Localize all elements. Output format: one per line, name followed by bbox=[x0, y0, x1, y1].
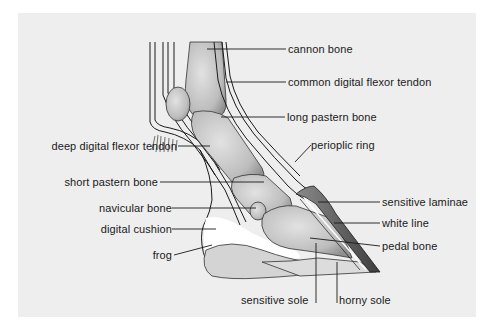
cannon-bone bbox=[185, 42, 226, 120]
label-perioplic-ring: perioplic ring bbox=[311, 139, 375, 151]
label-frog: frog bbox=[153, 249, 172, 261]
label-short-pastern-bone: short pastern bone bbox=[64, 176, 158, 188]
label-cannon-bone: cannon bone bbox=[288, 43, 353, 55]
label-sensitive-laminae: sensitive laminae bbox=[382, 196, 468, 208]
sesamoid-bone bbox=[166, 87, 190, 121]
label-sensitive-sole: sensitive sole bbox=[241, 294, 308, 306]
label-pedal-bone: pedal bone bbox=[382, 240, 437, 252]
label-navicular-bone: navicular bone bbox=[99, 202, 172, 214]
hoof-anatomy-illustration bbox=[0, 0, 493, 329]
label-common-digital-flexor-tendon: common digital flexor tendon bbox=[288, 76, 431, 88]
label-white-line: white line bbox=[382, 217, 429, 229]
label-deep-digital-flexor-tendon: deep digital flexor tendon bbox=[51, 140, 177, 152]
label-horny-sole: horny sole bbox=[339, 294, 391, 306]
label-digital-cushion: digital cushion bbox=[101, 223, 172, 235]
label-long-pastern-bone: long pastern bone bbox=[287, 111, 377, 123]
